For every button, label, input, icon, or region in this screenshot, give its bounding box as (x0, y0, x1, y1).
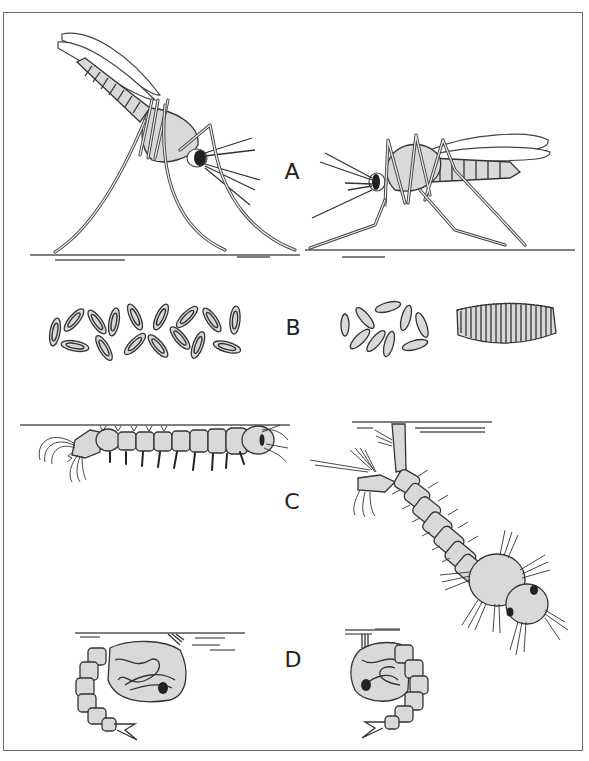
adult-mosquito-angled (30, 33, 300, 260)
eggs-single (341, 299, 431, 357)
adult-mosquito-parallel (305, 134, 575, 257)
eggs-with-floats (48, 302, 242, 362)
pupa-right (345, 629, 428, 738)
diagram-canvas (0, 0, 589, 761)
pupa-left (75, 633, 245, 740)
larva-horizontal (20, 425, 290, 482)
egg-raft (457, 303, 556, 343)
larva-hanging (310, 422, 568, 655)
